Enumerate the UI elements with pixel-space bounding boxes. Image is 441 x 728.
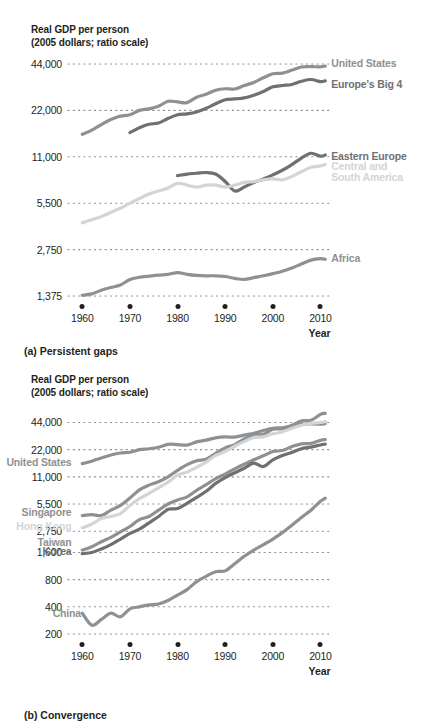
chart-panel-b: Real GDP per person (2005 dollars; ratio… bbox=[0, 364, 441, 728]
x-axis-label: Year bbox=[308, 665, 330, 677]
x-axis-tick-marker bbox=[223, 642, 228, 647]
y-axis-tick-label: 800 bbox=[4, 574, 62, 586]
x-axis-tick-marker bbox=[223, 304, 228, 309]
y-axis-tick-label: 22,000 bbox=[4, 104, 62, 116]
x-axis-tick-label: 1990 bbox=[205, 650, 245, 662]
y-axis-tick-label: 44,000 bbox=[4, 58, 62, 70]
x-axis-tick-marker bbox=[175, 642, 180, 647]
x-axis-tick-marker bbox=[127, 642, 132, 647]
x-axis-tick-label: 1960 bbox=[62, 312, 102, 324]
series-label: United States bbox=[6, 457, 71, 469]
chart-panel-a: Real GDP per person (2005 dollars; ratio… bbox=[0, 0, 441, 364]
x-axis-tick-label: 2010 bbox=[300, 312, 340, 324]
x-axis-tick-marker bbox=[270, 642, 275, 647]
y-axis-tick-label: 1,375 bbox=[4, 290, 62, 302]
y-axis-tick-label: 44,000 bbox=[4, 416, 62, 428]
series-label: Korea bbox=[43, 546, 72, 558]
x-axis-tick-label: 1970 bbox=[110, 650, 150, 662]
series-line bbox=[82, 66, 325, 134]
x-axis-tick-label: 1990 bbox=[205, 312, 245, 324]
x-axis-tick-label: 1980 bbox=[158, 650, 198, 662]
panel-b-plot-area: 44,00022,00011,0005,5002,7501,6008004002… bbox=[0, 364, 441, 728]
x-axis-tick-marker bbox=[80, 304, 85, 309]
x-axis-tick-marker bbox=[318, 304, 323, 309]
series-label: Hong Kong bbox=[16, 521, 71, 533]
x-axis-tick-marker bbox=[270, 304, 275, 309]
series-label: Central and South America bbox=[331, 161, 403, 184]
series-line bbox=[82, 422, 325, 528]
panel-a-plot-area: 44,00022,00011,0005,5002,7501,3751960197… bbox=[0, 0, 441, 364]
panel-b-caption: (b) Convergence bbox=[24, 709, 107, 721]
series-line bbox=[82, 498, 325, 625]
y-axis-tick-label: 11,000 bbox=[4, 151, 62, 163]
x-axis-tick-label: 2000 bbox=[253, 312, 293, 324]
x-axis-tick-marker bbox=[318, 642, 323, 647]
x-axis-tick-label: 2010 bbox=[300, 650, 340, 662]
y-axis-tick-label: 2,750 bbox=[4, 244, 62, 256]
x-axis-label: Year bbox=[308, 327, 330, 339]
x-axis-tick-marker bbox=[175, 304, 180, 309]
y-axis-tick-label: 5,500 bbox=[4, 197, 62, 209]
series-label: Singapore bbox=[22, 507, 72, 519]
x-axis-tick-label: 1980 bbox=[158, 312, 198, 324]
y-axis-tick-label: 200 bbox=[4, 628, 62, 640]
x-axis-tick-label: 1960 bbox=[62, 650, 102, 662]
series-label: China bbox=[53, 608, 81, 620]
panel-a-caption: (a) Persistent gaps bbox=[24, 345, 118, 357]
x-axis-tick-label: 1970 bbox=[110, 312, 150, 324]
x-axis-tick-marker bbox=[80, 642, 85, 647]
series-line bbox=[82, 259, 325, 296]
x-axis-tick-marker bbox=[127, 304, 132, 309]
y-axis-tick-label: 22,000 bbox=[4, 444, 62, 456]
series-label: United States bbox=[331, 58, 396, 70]
x-axis-tick-label: 2000 bbox=[253, 650, 293, 662]
series-label: Europe's Big 4 bbox=[331, 79, 402, 91]
y-axis-tick-label: 11,000 bbox=[4, 471, 62, 483]
series-label: Africa bbox=[331, 253, 360, 265]
